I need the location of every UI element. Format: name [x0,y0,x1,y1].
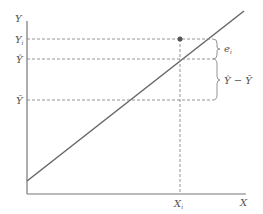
residual-label: ei [224,43,232,55]
explained-label: Ŷ − Ȳ [224,75,253,86]
regression-line [27,11,244,181]
observed-point [178,37,183,42]
yhat-label: Ŷ [16,54,24,65]
regression-diagram: Y X Yi Ŷ Ȳ Xi ei Ŷ − Ȳ [0,0,263,214]
ybar-label: Ȳ [16,95,24,106]
y-axis-label: Y [15,13,23,24]
xi-label: Xi [173,198,183,210]
x-axis-label: X [239,197,248,208]
residual-brace [213,39,220,59]
explained-brace [213,59,220,100]
yi-label: Yi [15,34,24,46]
